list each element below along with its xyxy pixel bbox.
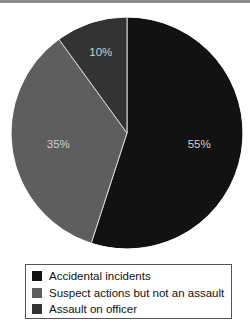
legend-label: Assault on officer bbox=[49, 303, 137, 315]
legend-item: Assault on officer bbox=[32, 301, 137, 317]
legend-swatch bbox=[32, 288, 42, 298]
legend-swatch bbox=[32, 304, 42, 314]
pie-chart: 55%35%10% bbox=[0, 0, 250, 260]
legend-item: Suspect actions but not an assault bbox=[32, 285, 224, 301]
legend-item: Accidental incidents bbox=[32, 268, 151, 284]
legend: Accidental incidents Suspect actions but… bbox=[25, 264, 232, 319]
data-label-1: 55% bbox=[188, 138, 211, 150]
legend-label: Suspect actions but not an assault bbox=[49, 287, 224, 299]
data-label-2: 35% bbox=[47, 138, 70, 150]
legend-swatch bbox=[32, 271, 42, 281]
data-label-3: 10% bbox=[89, 46, 112, 58]
legend-label: Accidental incidents bbox=[49, 270, 151, 282]
